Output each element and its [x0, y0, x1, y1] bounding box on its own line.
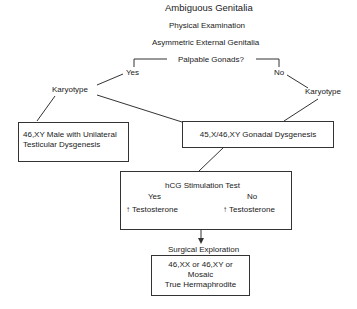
- hcg-no-label: No: [247, 192, 257, 202]
- final-line2: Mosaic: [152, 270, 249, 280]
- asymmetric-genitalia-label: Asymmetric External Genitalia: [152, 38, 259, 48]
- box-left-line2: Testicular Dysgenesis: [23, 140, 128, 150]
- male-unilateral-dysgenesis-box: 46,XY Male with Unilateral Testicular Dy…: [18, 122, 129, 162]
- hcg-no-result: ↑ Testosterone: [223, 205, 275, 215]
- down-arrow-icon: [198, 238, 204, 244]
- no-label: No: [274, 68, 284, 78]
- box-right-text: 45,X/46,XY Gonadal Dysgenesis: [200, 130, 316, 139]
- gonadal-dysgenesis-box: 45,X/46,XY Gonadal Dysgenesis: [182, 121, 334, 148]
- diagram-title: Ambiguous Genitalia: [165, 3, 253, 13]
- hcg-title: hCG Stimulation Test: [165, 181, 240, 191]
- final-line1: 46,XX or 46,XY or: [152, 260, 249, 270]
- up-arrow-icon: ↑: [223, 205, 227, 215]
- hcg-yes-label: Yes: [148, 192, 161, 202]
- final-line3: True Hermaphrodite: [152, 280, 249, 290]
- karyotype-right-label: Karyotype: [305, 87, 341, 97]
- up-arrow-icon: ↑: [126, 205, 130, 215]
- hcg-yes-result: ↑ Testosterone: [126, 205, 178, 215]
- karyotype-left-label: Karyotype: [52, 85, 88, 95]
- palpable-gonads-question: Palpable Gonads?: [178, 55, 244, 65]
- hcg-stimulation-test-box: hCG Stimulation Test Yes No ↑ Testostero…: [120, 171, 292, 230]
- true-hermaphrodite-box: 46,XX or 46,XY or Mosaic True Hermaphrod…: [151, 255, 250, 296]
- physical-examination-label: Physical Examination: [169, 21, 245, 31]
- box-left-line1: 46,XY Male with Unilateral: [23, 130, 128, 140]
- surgical-exploration-label: Surgical Exploration: [168, 245, 239, 255]
- yes-label: Yes: [126, 68, 139, 78]
